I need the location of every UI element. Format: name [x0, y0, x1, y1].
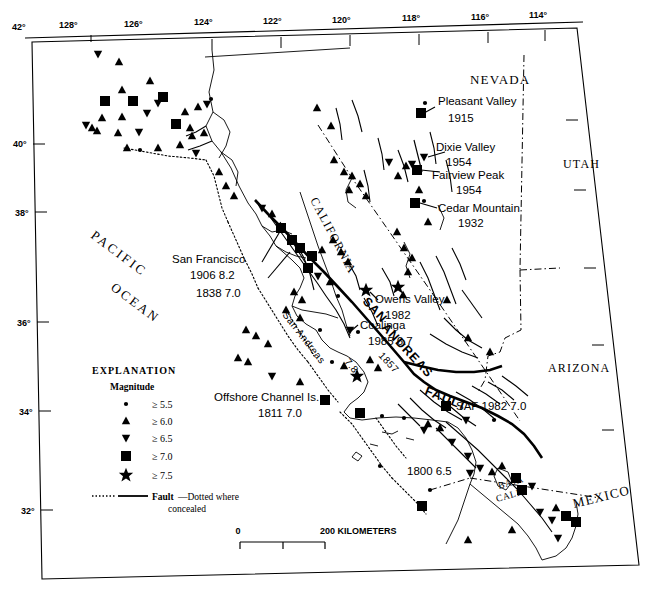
epicenter-symbol: [307, 251, 317, 261]
annotation-line: 1800 6.5: [407, 465, 452, 477]
epicenter-symbol: [498, 461, 506, 469]
epicenter-symbol: [181, 107, 189, 115]
epicenter-symbol: [561, 511, 571, 521]
epicenter-symbol: [296, 377, 304, 385]
legend-fault-rest: —Dotted where: [177, 492, 239, 502]
region-label-utah: UTAH: [563, 157, 600, 171]
epicenter-symbol: [215, 167, 223, 175]
region-labels: NEVADA UTAH ARIZONA CALIFORNIA MEXICO PA…: [88, 72, 631, 511]
epicenter-symbol: [222, 181, 230, 189]
map-frame: [25, 22, 639, 579]
epicenter-symbol: [135, 129, 143, 137]
epicenter-symbol: [82, 122, 90, 130]
epicenter-symbol: [355, 408, 365, 418]
epicenter-symbol: [394, 171, 402, 179]
epicenter-symbol: [417, 501, 427, 511]
epicenter-symbol: [415, 185, 423, 193]
epicenter-symbol: [548, 517, 556, 525]
epicenter-symbol: [378, 464, 382, 468]
annotation-line: 1811 7.0: [258, 407, 302, 419]
epicenter-symbol: [128, 96, 138, 106]
annotation-pleasant-valley: Pleasant Valley 1915: [438, 95, 517, 124]
epicenter-symbol: [88, 123, 96, 131]
lon-label: 126°: [124, 19, 143, 29]
legend-fault-line2: concealed: [168, 504, 206, 514]
scale-zero: 0: [235, 526, 240, 536]
lat-label: 32°: [21, 506, 35, 516]
triangle-up-icon: [122, 416, 130, 424]
triangle-down-icon: [122, 435, 130, 443]
epicenter-symbol: [366, 355, 374, 363]
annotation-line: 1954: [446, 156, 472, 168]
epicenter-symbol: [492, 418, 496, 422]
epicenter-symbol: [100, 96, 110, 106]
epicenter-symbol: [428, 488, 432, 492]
lon-label: 116°: [471, 12, 490, 22]
region-label-ocean: OCEAN: [108, 279, 163, 325]
annotation-line: Fairview Peak: [432, 169, 504, 181]
epicenter-symbol: [488, 467, 496, 475]
epicenter-symbol: [330, 360, 334, 364]
lat-label: 36°: [17, 318, 31, 328]
epicenter-symbol: [123, 143, 131, 151]
epicenter-symbol: [571, 517, 581, 527]
annotation-cedar-mountain: Cedar Mountain 1932: [438, 202, 520, 229]
epicenter-symbol: [154, 143, 162, 151]
earthquake-annotations: San Francisco 1906 8.2 1838 7.0 Pleasant…: [172, 95, 526, 477]
epicenter-symbol: [209, 97, 213, 101]
epicenter-symbol: [320, 395, 330, 405]
star-icon: [119, 468, 133, 482]
epicenter-symbol: [404, 267, 412, 275]
epicenter-symbol: [410, 198, 420, 208]
epicenter-symbol: [327, 121, 335, 129]
epicenter-symbol: [424, 217, 432, 225]
annotation-offshore-channel-islands: Offshore Channel Is. 1811 7.0: [214, 391, 319, 419]
epicenter-symbol: [393, 227, 401, 235]
epicenter-symbol: [356, 179, 364, 187]
region-label-pacific: PACIFIC: [88, 227, 150, 279]
epicenter-symbol: [508, 525, 516, 533]
epicenter-symbol: [94, 51, 102, 59]
epicenter-symbol: [244, 357, 252, 365]
annotation-dixie-valley: Dixie Valley 1954: [436, 141, 495, 168]
scale-max: 200 KILOMETERS: [320, 526, 397, 536]
legend-explanation: EXPLANATION Magnitude ≥ 5.5 ≥ 6.0 ≥ 6.5 …: [92, 365, 239, 514]
annotation-san-francisco: San Francisco 1906 8.2 1838 7.0: [172, 253, 246, 299]
epicenter-symbol: [114, 128, 122, 136]
epicenter-symbol: [192, 150, 200, 158]
epicenter-symbol: [176, 140, 184, 148]
legend-item-65: ≥ 6.5: [122, 433, 173, 444]
lon-label: 124°: [194, 17, 213, 27]
epicenter-symbol: [448, 439, 456, 447]
epicenter-symbol: [348, 171, 356, 179]
epicenter-symbol: [194, 102, 202, 110]
lon-label: 118°: [402, 13, 421, 23]
longitude-labels: 128° 126° 124° 122° 120° 118° 116° 114°: [59, 10, 548, 30]
epicenter-symbol: [290, 287, 298, 295]
annotation-saf-1982: SAF 1982 7.0: [456, 400, 526, 412]
epicenter-symbol: [264, 339, 272, 347]
epicenter-symbol: [420, 427, 428, 435]
political-borders: [205, 48, 600, 498]
epicenter-symbol: [118, 85, 126, 93]
lat-label: 38°: [15, 208, 29, 218]
annotation-eq-1800: 1800 6.5: [407, 465, 452, 477]
legend-subtitle: Magnitude: [110, 382, 154, 392]
epicenter-symbol: [154, 100, 162, 108]
epicenter-symbol: [171, 119, 181, 129]
fault-traces: [124, 100, 552, 532]
annotation-owens-valley: Owens Valley 1982: [375, 293, 445, 321]
annotation-line: 1954: [456, 184, 482, 196]
epicenter-symbol: [203, 101, 211, 109]
lon-label: 114°: [529, 10, 548, 20]
legend-item-label: ≥ 7.0: [152, 451, 173, 462]
annotation-line: 1838 7.0: [196, 287, 241, 299]
epicenter-symbol: [436, 423, 444, 431]
legend-item-55: ≥ 5.5: [124, 399, 173, 410]
epicenter-symbol: [276, 223, 286, 233]
epicenter-symbol: [486, 347, 494, 355]
lat-label: 42°: [12, 22, 26, 32]
annotation-line: Owens Valley: [375, 293, 445, 305]
legend-item-70: ≥ 7.0: [121, 451, 173, 462]
epicenter-symbol: [186, 123, 194, 131]
